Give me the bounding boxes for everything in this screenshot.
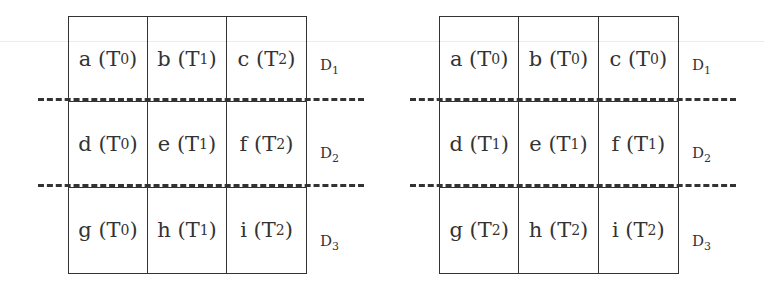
grid-cell: g (T0) — [69, 188, 148, 273]
grid-cell: g (T2) — [440, 188, 519, 273]
row-label-d1: D1 — [692, 56, 711, 77]
row-label-d3: D3 — [692, 232, 711, 253]
grid-cell: b (T1) — [148, 17, 227, 102]
grid-cell: e (T1) — [519, 102, 598, 187]
grid-cell: a (T0) — [69, 17, 148, 102]
dashed-divider — [410, 98, 736, 101]
grid-cell: h (T2) — [519, 188, 598, 273]
dashed-divider — [38, 98, 364, 101]
grid-cell: f (T1) — [599, 102, 678, 187]
row-label-d2: D2 — [692, 144, 711, 165]
grid-cell: h (T1) — [148, 188, 227, 273]
grid-cell: d (T1) — [440, 102, 519, 187]
grid-cell: e (T1) — [148, 102, 227, 187]
row-label-d1: D1 — [320, 56, 339, 77]
grid-cell: c (T0) — [599, 17, 678, 102]
right-grid: a (T0) b (T0) c (T0) d (T1) e (T1) f (T1… — [439, 16, 679, 274]
row-label-d3: D3 — [320, 232, 339, 253]
grid-cell: b (T0) — [519, 17, 598, 102]
dashed-divider — [410, 184, 736, 187]
grid-cell: a (T0) — [440, 17, 519, 102]
row-label-d2: D2 — [320, 144, 339, 165]
grid-cell: f (T2) — [227, 102, 306, 187]
grid-cell: c (T2) — [227, 17, 306, 102]
left-grid: a (T0) b (T1) c (T2) d (T0) e (T1) f (T2… — [68, 16, 307, 274]
grid-cell: d (T0) — [69, 102, 148, 187]
grid-cell: i (T2) — [599, 188, 678, 273]
grid-cell: i (T2) — [227, 188, 306, 273]
dashed-divider — [38, 184, 364, 187]
